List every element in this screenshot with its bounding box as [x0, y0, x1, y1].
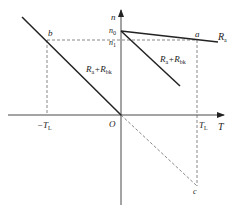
curve-Ra-Rbk-left: [22, 17, 121, 115]
point-a: a: [195, 29, 200, 39]
point-b: b: [48, 28, 53, 38]
axis-label-n: n: [111, 12, 116, 22]
axis-label-T: T: [218, 121, 225, 132]
label-Ra: Ra: [217, 31, 227, 43]
tick-neg-TL: −TL: [37, 120, 52, 131]
origin-label-O: O: [109, 119, 116, 129]
dashed-O-to-c: [121, 115, 197, 186]
label-Ra-Rbk-right: Ra+Rbk: [159, 54, 186, 65]
tick-n1: n1: [109, 38, 116, 48]
label-Ra-Rbk-left: Ra+Rbk: [85, 64, 112, 75]
tick-n0: n0: [109, 26, 116, 36]
point-c: c: [193, 187, 197, 196]
tick-pos-TL: TL: [199, 120, 208, 131]
characteristic-diagram: n T O n0 n1 −TL TL a b c Ra Ra+Rbk Ra+Rb…: [0, 0, 238, 209]
